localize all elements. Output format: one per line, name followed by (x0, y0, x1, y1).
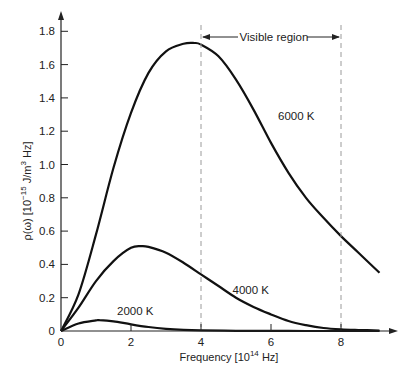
blackbody-chart: 0246800.20.40.60.81.01.21.41.61.8 6000 K… (0, 0, 419, 380)
x-tick-label: 8 (338, 336, 344, 348)
x-tick-label: 2 (128, 336, 134, 348)
visible-region-bounds (201, 25, 341, 331)
y-tick-label: 0.6 (39, 225, 55, 237)
x-tick-label: 0 (58, 336, 64, 348)
y-tick-label: 1.8 (39, 25, 55, 37)
y-tick-label: 0.4 (39, 258, 56, 270)
curve-label-6000k: 6000 K (278, 110, 315, 122)
visible-region-label: Visible region (240, 31, 309, 43)
curves (61, 43, 380, 331)
y-axis-arrow-icon (58, 11, 64, 20)
curve-labels: 6000 K4000 K2000 K (117, 110, 315, 318)
curve-label-4000k: 4000 K (233, 284, 270, 296)
arrow-right-icon (332, 34, 340, 40)
x-tick-label: 4 (198, 336, 205, 348)
axes (58, 11, 398, 334)
y-tick-label: 1.0 (39, 159, 55, 171)
x-tick-label: 6 (268, 336, 274, 348)
y-tick-label: 0.2 (39, 292, 55, 304)
arrow-left-icon (202, 34, 210, 40)
y-tick-label: 0 (49, 325, 55, 337)
y-tick-label: 1.6 (39, 59, 55, 71)
curve-4000k (61, 246, 380, 331)
x-axis-title: Frequency [1014 Hz] (180, 349, 279, 363)
x-axis-arrow-icon (389, 328, 398, 334)
curve-label-2000k: 2000 K (117, 305, 154, 317)
y-tick-label: 0.8 (39, 192, 55, 204)
visible-region-annotation: Visible region (202, 31, 340, 43)
y-tick-label: 1.4 (39, 92, 56, 104)
y-axis-title: ρ(ω) [10−15 J/m3 Hz] (19, 142, 33, 241)
y-tick-label: 1.2 (39, 125, 55, 137)
